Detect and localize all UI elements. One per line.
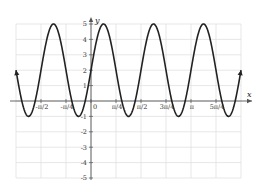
x-tick-label: 0	[93, 103, 97, 111]
y-tick-label: 3	[83, 51, 87, 59]
x-tick-label: 3π/4	[160, 103, 175, 111]
y-tick-label: 2	[83, 67, 87, 75]
x-tick-label: π	[190, 103, 195, 111]
sine-chart: xy 54321-1-2-3-4-5-π/2-π/40π/4π/23π/4π5π…	[0, 0, 263, 191]
x-axis-arrow-icon	[247, 99, 252, 103]
x-tick-label: π/4	[112, 103, 123, 111]
y-tick-label: 5	[83, 20, 87, 28]
x-tick-label: -π/2	[36, 103, 49, 111]
y-tick-label: 1	[83, 82, 87, 90]
y-tick-label: -4	[81, 159, 87, 167]
x-axis-label: x	[247, 90, 252, 99]
x-tick-label: 5π/4	[210, 103, 225, 111]
y-axis-label: y	[94, 16, 100, 25]
y-tick-label: -1	[81, 113, 87, 121]
y-tick-label: -3	[81, 144, 87, 152]
x-tick-label: -π/4	[61, 103, 74, 111]
y-axis-arrow-icon	[89, 17, 93, 22]
y-tick-label: 4	[83, 36, 87, 44]
y-tick-label: -2	[81, 128, 87, 136]
x-tick-label: π/2	[137, 103, 148, 111]
y-tick-label: -5	[81, 174, 87, 182]
